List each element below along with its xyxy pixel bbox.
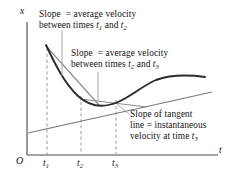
annotation-secant-2-3-line2: between times t2 and t3 xyxy=(71,59,159,69)
position-time-graph-figure: x t O t1 t2 t3 Slope= average velocity b… xyxy=(0,0,231,181)
annotation-secant-1-2-line1: Slope= average velocity xyxy=(39,9,136,19)
annotation-secant-2-3-slope-word: Slope xyxy=(71,48,93,58)
annotation-tangent-velocity-text: velocity at time xyxy=(130,131,192,141)
tick-label-t2: t2 xyxy=(77,158,83,169)
annotation-secant-1-2-line2: between times t1 and t2 xyxy=(39,20,127,30)
annotation-tangent: Slope of tangent line = instantaneous ve… xyxy=(130,109,206,145)
annotation-secant-1-2-equals: = average velocity xyxy=(66,9,137,19)
tick-label-t1-sub: 1 xyxy=(46,162,49,169)
tick-label-t3-sub: 3 xyxy=(115,162,118,169)
origin-label: O xyxy=(16,155,23,166)
annotation-tangent-line3: velocity at time t3 xyxy=(130,131,198,141)
annotation-tangent-line2: line = instantaneous xyxy=(130,120,206,130)
tick-label-t2-sub: 2 xyxy=(80,162,83,169)
annotation-secant-1-2-and: and xyxy=(102,20,121,30)
annotation-secant-2-3-between: between times xyxy=(71,59,128,69)
annotation-secant-1-2-tb-sub: 2 xyxy=(124,24,127,31)
annotation-secant-2-3-line1: Slope= average velocity xyxy=(71,48,168,58)
tick-label-t3: t3 xyxy=(112,158,118,169)
annotation-secant-2-3: Slope= average velocity between times t2… xyxy=(71,48,168,72)
annotation-tangent-line1: Slope of tangent xyxy=(130,109,193,119)
annotation-secant-2-3-and: and xyxy=(134,59,153,69)
y-axis-label: x xyxy=(20,6,24,16)
annotation-secant-2-3-equals: = average velocity xyxy=(98,48,169,58)
annotation-secant-2-3-tb-sub: 3 xyxy=(156,63,159,70)
annotation-secant-1-2-between: between times xyxy=(39,20,96,30)
annotation-secant-1-2-slope-word: Slope xyxy=(39,9,61,19)
annotation-tangent-t-sub: 3 xyxy=(195,135,198,142)
x-axis-label: t xyxy=(219,145,222,155)
tick-label-t1: t1 xyxy=(43,158,49,169)
annotation-secant-1-2: Slope= average velocity between times t1… xyxy=(39,9,136,33)
